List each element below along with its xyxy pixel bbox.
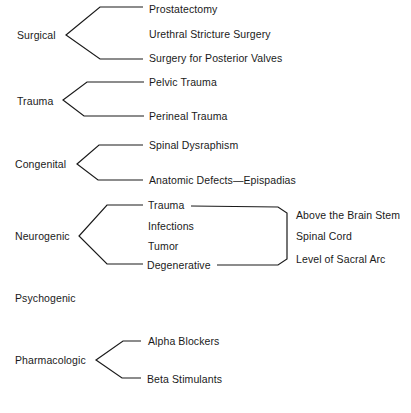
surgical-bracket <box>66 7 143 59</box>
congenital-bracket <box>77 145 143 180</box>
category-trauma: Trauma <box>17 95 53 107</box>
category-surgical: Surgical <box>17 29 56 41</box>
item-alpha-blockers: Alpha Blockers <box>148 335 219 347</box>
item-tumor: Tumor <box>148 240 178 252</box>
neurogenic-level-bracket <box>191 206 287 265</box>
item-prostatectomy: Prostatectomy <box>149 3 217 15</box>
item-urethral-stricture-surgery: Urethral Stricture Surgery <box>149 28 271 40</box>
category-pharmacologic: Pharmacologic <box>15 354 86 366</box>
item-neuro-trauma: Trauma <box>148 199 184 211</box>
item-infections: Infections <box>148 220 194 232</box>
category-psychogenic: Psychogenic <box>15 292 76 304</box>
item-pelvic-trauma: Pelvic Trauma <box>149 76 217 88</box>
level-sacral-arc: Level of Sacral Arc <box>296 253 385 265</box>
neurogenic-bracket <box>79 205 143 264</box>
item-perineal-trauma: Perineal Trauma <box>149 110 228 122</box>
trauma-bracket <box>63 82 144 116</box>
category-congenital: Congenital <box>15 158 66 170</box>
item-beta-stimulants: Beta Stimulants <box>147 373 222 385</box>
level-above-brain-stem: Above the Brain Stem <box>296 209 400 221</box>
item-surgery-posterior-valves: Surgery for Posterior Valves <box>149 52 282 64</box>
level-spinal-cord: Spinal Cord <box>296 230 352 242</box>
item-anatomic-defects-epispadias: Anatomic Defects—Epispadias <box>149 174 296 186</box>
pharmacologic-bracket <box>96 341 141 378</box>
item-spinal-dysraphism: Spinal Dysraphism <box>149 139 238 151</box>
item-degenerative: Degenerative <box>147 259 211 271</box>
category-neurogenic: Neurogenic <box>15 230 70 242</box>
